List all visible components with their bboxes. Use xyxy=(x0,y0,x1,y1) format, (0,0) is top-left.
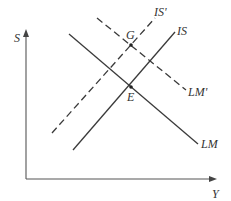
x-axis-label: Y xyxy=(212,187,220,201)
is-prime-curve xyxy=(52,18,155,133)
point-g-label: G xyxy=(126,28,135,42)
y-axis-label: S xyxy=(14,31,20,45)
is-label: IS xyxy=(176,24,187,38)
x-axis-arrow-icon xyxy=(209,176,217,182)
is-prime-label: IS' xyxy=(153,5,167,19)
lm-curve xyxy=(69,34,198,144)
lm-label: LM xyxy=(200,137,219,151)
y-axis-arrow-icon xyxy=(23,29,29,37)
lm-prime-label: LM' xyxy=(187,85,208,99)
is-lm-diagram: S Y IS' IS LM' LM E G xyxy=(0,0,231,201)
point-e-label: E xyxy=(126,90,135,104)
point-g-marker xyxy=(129,43,133,47)
point-e-marker xyxy=(129,85,133,89)
lm-prime-curve xyxy=(97,18,186,90)
